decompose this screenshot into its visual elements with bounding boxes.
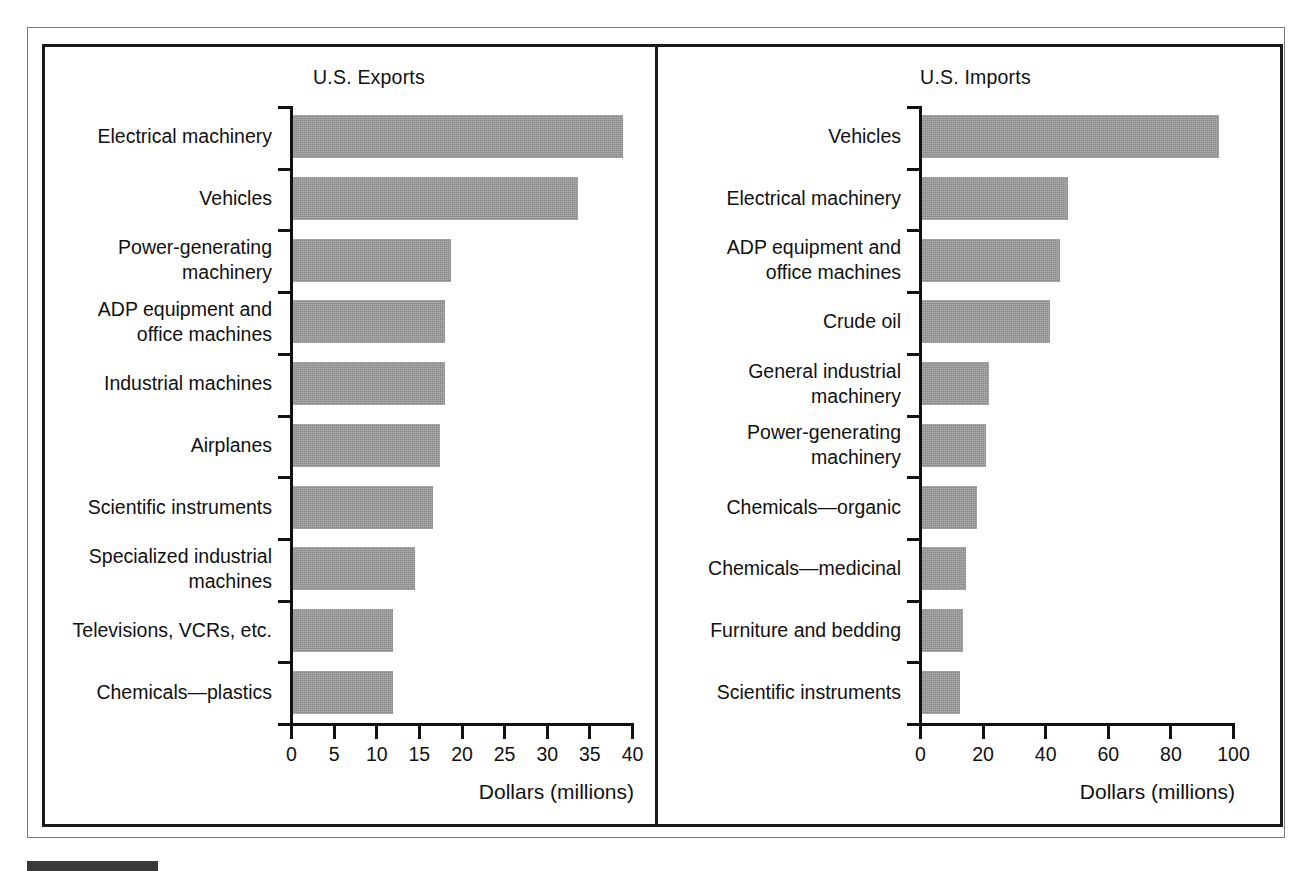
chart-panel-exports: U.S. Exports Electrical machineryVehicle… bbox=[42, 44, 658, 827]
category-label: Vehicles bbox=[656, 124, 901, 149]
x-axis-tick bbox=[1232, 726, 1235, 739]
y-axis-tick bbox=[278, 476, 290, 479]
x-axis-tick-label: 40 bbox=[608, 743, 658, 766]
category-label: Chemicals—organic bbox=[656, 495, 901, 520]
y-axis-tick bbox=[278, 291, 290, 294]
caption-swatch bbox=[27, 861, 158, 871]
y-axis-tick bbox=[278, 415, 290, 418]
x-axis-caption: Dollars (millions) bbox=[250, 780, 634, 804]
category-label: Industrial machines bbox=[37, 371, 272, 396]
bar bbox=[922, 362, 989, 405]
x-axis-tick bbox=[461, 726, 464, 739]
x-axis-tick bbox=[333, 726, 336, 739]
bar bbox=[922, 486, 977, 529]
bar bbox=[293, 115, 623, 158]
x-axis-tick bbox=[588, 726, 591, 739]
category-label: Electrical machinery bbox=[37, 124, 272, 149]
plot-area-imports: VehiclesElectrical machineryADP equipmen… bbox=[658, 44, 1283, 827]
plot-area-exports: Electrical machineryVehiclesPower-genera… bbox=[42, 44, 658, 827]
y-axis-tick bbox=[907, 229, 919, 232]
category-label: Power-generating machinery bbox=[656, 420, 901, 470]
x-axis-caption: Dollars (millions) bbox=[879, 780, 1235, 804]
category-label: Crude oil bbox=[656, 309, 901, 334]
bar bbox=[293, 177, 578, 220]
bar bbox=[293, 300, 445, 343]
bar bbox=[922, 239, 1060, 282]
category-label: Vehicles bbox=[37, 186, 272, 211]
bar bbox=[922, 177, 1068, 220]
bar bbox=[293, 424, 440, 467]
x-axis-tick-label: 80 bbox=[1146, 743, 1196, 766]
y-axis-tick bbox=[907, 600, 919, 603]
x-axis-tick bbox=[546, 726, 549, 739]
bar bbox=[922, 115, 1219, 158]
y-axis-tick bbox=[278, 538, 290, 541]
category-label: Furniture and bedding bbox=[656, 618, 901, 643]
bar bbox=[922, 547, 966, 590]
y-axis-tick bbox=[907, 723, 919, 726]
bar bbox=[293, 547, 415, 590]
y-axis-tick bbox=[278, 106, 290, 109]
bar bbox=[922, 609, 963, 652]
y-axis-tick bbox=[907, 476, 919, 479]
category-label: Scientific instruments bbox=[656, 680, 901, 705]
x-axis-tick bbox=[503, 726, 506, 739]
y-axis-tick bbox=[278, 600, 290, 603]
bar bbox=[293, 486, 433, 529]
category-label: ADP equipment and office machines bbox=[37, 297, 272, 347]
x-axis-tick-label: 100 bbox=[1209, 743, 1259, 766]
category-label: Chemicals—medicinal bbox=[656, 556, 901, 581]
category-label: Chemicals—plastics bbox=[37, 680, 272, 705]
y-axis-tick bbox=[907, 168, 919, 171]
x-axis-tick bbox=[418, 726, 421, 739]
y-axis-tick bbox=[907, 291, 919, 294]
x-axis-tick-label: 20 bbox=[958, 743, 1008, 766]
x-axis-tick bbox=[919, 726, 922, 739]
x-axis-line bbox=[919, 723, 1235, 726]
y-axis-tick bbox=[278, 353, 290, 356]
x-axis-tick bbox=[1044, 726, 1047, 739]
category-label: Televisions, VCRs, etc. bbox=[37, 618, 272, 643]
x-axis-tick-label: 60 bbox=[1083, 743, 1133, 766]
bar bbox=[922, 300, 1050, 343]
bar bbox=[293, 239, 451, 282]
y-axis-tick bbox=[278, 168, 290, 171]
y-axis-tick bbox=[278, 723, 290, 726]
bar bbox=[293, 362, 445, 405]
y-axis-tick bbox=[278, 229, 290, 232]
chart-panel-imports: U.S. Imports VehiclesElectrical machiner… bbox=[658, 44, 1283, 827]
y-axis-tick bbox=[907, 661, 919, 664]
bar bbox=[922, 671, 960, 714]
x-axis-tick bbox=[631, 726, 634, 739]
bar bbox=[922, 424, 986, 467]
x-axis-tick bbox=[1169, 726, 1172, 739]
y-axis-tick bbox=[278, 661, 290, 664]
y-axis-tick bbox=[907, 415, 919, 418]
category-label: Specialized industrial machines bbox=[37, 544, 272, 594]
x-axis-tick bbox=[290, 726, 293, 739]
y-axis-tick bbox=[907, 353, 919, 356]
category-label: Scientific instruments bbox=[37, 495, 272, 520]
x-axis-tick bbox=[1107, 726, 1110, 739]
x-axis-tick-label: 0 bbox=[896, 743, 946, 766]
x-axis-tick-label: 40 bbox=[1021, 743, 1071, 766]
x-axis-tick bbox=[982, 726, 985, 739]
bar bbox=[293, 609, 393, 652]
category-label: Electrical machinery bbox=[656, 186, 901, 211]
y-axis-tick bbox=[907, 106, 919, 109]
category-label: Airplanes bbox=[37, 433, 272, 458]
category-label: Power-generating machinery bbox=[37, 235, 272, 285]
category-label: General industrial machinery bbox=[656, 359, 901, 409]
x-axis-tick bbox=[375, 726, 378, 739]
bar bbox=[293, 671, 393, 714]
category-label: ADP equipment and office machines bbox=[656, 235, 901, 285]
y-axis-tick bbox=[907, 538, 919, 541]
